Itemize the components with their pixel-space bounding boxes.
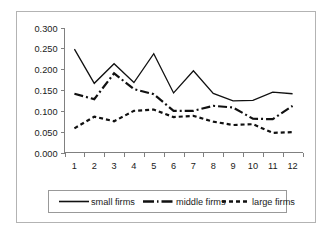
- x-tick-marks: [66, 153, 304, 157]
- y-tick-labels: 0.0000.0500.1000.1500.2000.2500.300: [35, 24, 58, 159]
- x-tick-label: 8: [211, 161, 216, 171]
- legend-entries: small firmsmiddle firmslarge firms: [59, 197, 295, 207]
- x-tick-label: 6: [171, 161, 176, 171]
- series-line-small-firms: [74, 49, 292, 101]
- y-tick-label: 0.300: [35, 24, 58, 34]
- x-tick-label: 12: [287, 161, 297, 171]
- x-tick-label: 9: [231, 161, 236, 171]
- x-tick-label: 5: [151, 161, 156, 171]
- y-tick-label: 0.200: [35, 65, 58, 75]
- y-tick-label: 0.050: [35, 128, 58, 138]
- series-line-middle-firms: [74, 73, 292, 119]
- x-tick-labels: 123456789101112: [72, 161, 298, 171]
- y-tick-label: 0.000: [35, 149, 58, 159]
- chart-frame: 0.0000.0500.1000.1500.2000.2500.300 1234…: [16, 11, 316, 223]
- x-tick-label: 3: [112, 161, 117, 171]
- legend-label-large-firms: large firms: [252, 197, 295, 207]
- figure-canvas: 0.0000.0500.1000.1500.2000.2500.300 1234…: [0, 0, 333, 237]
- x-tick-label: 4: [131, 161, 136, 171]
- chart-legend: small firmsmiddle firmslarge firms: [49, 191, 296, 213]
- y-tick-label: 0.250: [35, 44, 58, 54]
- x-tick-label: 2: [92, 161, 97, 171]
- y-tick-marks: [61, 29, 65, 154]
- x-tick-label: 11: [268, 161, 278, 171]
- series-line-large-firms: [74, 110, 292, 133]
- x-tick-label: 1: [72, 161, 77, 171]
- legend-label-small-firms: small firms: [91, 197, 135, 207]
- x-tick-label: 7: [191, 161, 196, 171]
- y-tick-label: 0.150: [35, 86, 58, 96]
- legend-label-middle-firms: middle firms: [176, 197, 226, 207]
- x-tick-label: 10: [248, 161, 258, 171]
- line-chart: 0.0000.0500.1000.1500.2000.2500.300 1234…: [17, 12, 317, 224]
- data-series-group: [74, 49, 292, 133]
- y-tick-label: 0.100: [35, 107, 58, 117]
